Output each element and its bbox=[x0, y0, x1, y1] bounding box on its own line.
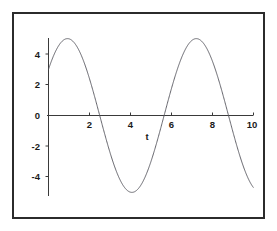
figure-frame: 4 2 0 -2 -4 2 4 6 8 10 t bbox=[12, 12, 265, 219]
y-tick-label-neg2: -2 bbox=[32, 141, 40, 152]
y-tick-label-4: 4 bbox=[35, 49, 41, 60]
x-tick-label-10: 10 bbox=[247, 119, 258, 130]
plot-area: 4 2 0 -2 -4 2 4 6 8 10 t bbox=[14, 14, 263, 217]
x-axis-title: t bbox=[145, 131, 149, 142]
x-tick-label-8: 8 bbox=[210, 119, 215, 130]
x-tick-label-4: 4 bbox=[128, 119, 134, 130]
y-tick-label-neg4: -4 bbox=[32, 171, 41, 182]
chart-svg: 4 2 0 -2 -4 2 4 6 8 10 t bbox=[14, 14, 263, 217]
x-tick-label-2: 2 bbox=[87, 119, 92, 130]
y-tick-label-2: 2 bbox=[35, 79, 40, 90]
x-tick-label-6: 6 bbox=[169, 119, 174, 130]
y-tick-label-0: 0 bbox=[35, 110, 40, 121]
